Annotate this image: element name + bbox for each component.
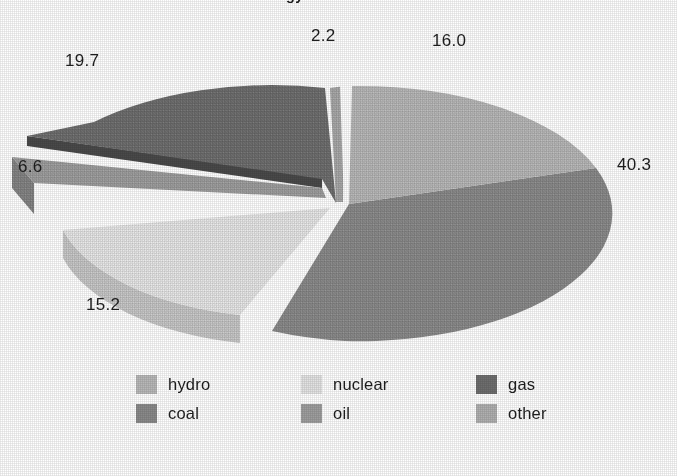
legend-swatch-hydro [136, 375, 157, 394]
legend-item-gas[interactable]: gas [476, 372, 535, 396]
legend-item-nuclear[interactable]: nuclear [301, 372, 389, 396]
value-label-hydro: 16.0 [432, 31, 466, 51]
legend-swatch-coal [136, 404, 157, 423]
legend-label-gas: gas [508, 376, 535, 393]
legend-row: hydro nuclear gas [136, 372, 556, 398]
value-label-gas: 19.7 [65, 51, 99, 71]
legend-swatch-gas [476, 375, 497, 394]
legend-swatch-nuclear [301, 375, 322, 394]
legend-item-coal[interactable]: coal [136, 401, 199, 425]
legend-item-hydro[interactable]: hydro [136, 372, 210, 396]
legend-item-oil[interactable]: oil [301, 401, 350, 425]
value-label-other: 2.2 [311, 26, 336, 46]
legend-label-oil: oil [333, 405, 350, 422]
legend-label-hydro: hydro [168, 376, 210, 393]
value-label-nuclear: 15.2 [86, 295, 120, 315]
legend-label-nuclear: nuclear [333, 376, 389, 393]
pie-chart-plot-area: 2.2 16.0 40.3 19.7 6.6 15.2 [0, 18, 677, 358]
legend-row: coal oil other [136, 401, 556, 427]
value-label-oil: 6.6 [18, 157, 43, 177]
legend-swatch-other [476, 404, 497, 423]
legend-label-coal: coal [168, 405, 199, 422]
chart-title: World Energy Sources: share in 2007 [0, 0, 677, 3]
legend-item-other[interactable]: other [476, 401, 547, 425]
legend-swatch-oil [301, 404, 322, 423]
chart-legend: hydro nuclear gas coal oil other [136, 372, 556, 434]
value-label-coal: 40.3 [617, 155, 651, 175]
legend-label-other: other [508, 405, 547, 422]
